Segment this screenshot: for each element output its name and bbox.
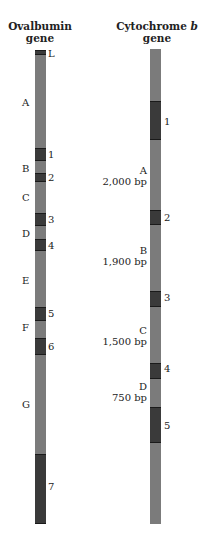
ovalbumin-exon-label-2: 2 — [48, 172, 54, 183]
cytochrome-b-intron-size-A: 2,000 bp — [102, 176, 147, 187]
ovalbumin-intron-label-A: A — [22, 97, 29, 108]
ovalbumin-exon-1 — [35, 148, 46, 161]
cytochrome-b-intron-size-B: 1,900 bp — [102, 256, 147, 267]
cytochrome-b-exon-label-3: 3 — [164, 292, 170, 303]
cytochrome-b-title-line2: gene — [112, 32, 202, 44]
ovalbumin-exon-label-5: 5 — [48, 308, 54, 319]
cytochrome-b-exon-3 — [150, 291, 161, 307]
ovalbumin-exon-label-3: 3 — [48, 214, 54, 225]
ovalbumin-intron-label-F: F — [22, 322, 29, 333]
ovalbumin-intron-label-D: D — [22, 228, 30, 239]
ovalbumin-intron-label-C: C — [22, 192, 30, 203]
ovalbumin-exon-4 — [35, 239, 46, 251]
ovalbumin-exon-2 — [35, 173, 46, 182]
cytochrome-b-intron-A: A 2,000 bp — [102, 165, 147, 187]
cytochrome-b-title: Cytochrome b gene — [112, 20, 202, 44]
cytochrome-b-title-italic: b — [190, 20, 197, 32]
ovalbumin-title: Ovalbumin gene — [4, 20, 76, 44]
cytochrome-b-exon-label-5: 5 — [164, 420, 170, 431]
cytochrome-b-intron-size-C: 1,500 bp — [102, 336, 147, 347]
cytochrome-b-exon-2 — [150, 210, 161, 225]
ovalbumin-exon-6 — [35, 338, 46, 355]
cytochrome-b-intron-C: C 1,500 bp — [102, 325, 147, 347]
cytochrome-b-exon-label-2: 2 — [164, 212, 170, 223]
cytochrome-b-exon-4 — [150, 363, 161, 379]
cytochrome-b-intron-label-D: D — [112, 381, 147, 392]
cytochrome-b-exon-label-1: 1 — [164, 116, 170, 127]
ovalbumin-exon-5 — [35, 307, 46, 321]
cytochrome-b-intron-B: B 1,900 bp — [102, 245, 147, 267]
ovalbumin-intron-label-B: B — [22, 163, 29, 174]
ovalbumin-intron-label-G: G — [22, 399, 30, 410]
ovalbumin-title-line2: gene — [4, 32, 76, 44]
ovalbumin-exon-3 — [35, 213, 46, 226]
ovalbumin-exon-label-6: 6 — [48, 341, 54, 352]
ovalbumin-exon-7 — [35, 454, 46, 524]
cytochrome-b-title-line1: Cytochrome b — [112, 20, 202, 32]
ovalbumin-title-line1: Ovalbumin — [4, 20, 76, 32]
ovalbumin-exon-L — [35, 50, 46, 55]
ovalbumin-exon-label-1: 1 — [48, 149, 54, 160]
ovalbumin-exon-label-L: L — [48, 48, 55, 59]
cytochrome-b-gene-bar — [150, 49, 161, 524]
cytochrome-b-exon-1 — [150, 101, 161, 140]
cytochrome-b-intron-size-D: 750 bp — [112, 392, 147, 403]
ovalbumin-gene-bar — [35, 50, 46, 524]
ovalbumin-intron-label-E: E — [22, 275, 29, 286]
cytochrome-b-exon-5 — [150, 407, 161, 443]
cytochrome-b-intron-label-A: A — [102, 165, 147, 176]
cytochrome-b-exon-label-4: 4 — [164, 363, 170, 374]
cytochrome-b-intron-label-B: B — [102, 245, 147, 256]
cytochrome-b-intron-D: D 750 bp — [112, 381, 147, 403]
cytochrome-b-intron-label-C: C — [102, 325, 147, 336]
ovalbumin-exon-label-4: 4 — [48, 240, 54, 251]
ovalbumin-exon-label-7: 7 — [48, 481, 54, 492]
